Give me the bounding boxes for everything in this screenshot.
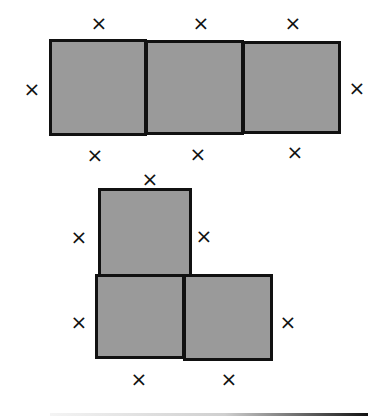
- square-tile: [183, 274, 273, 361]
- x-mark-icon: ×: [285, 142, 305, 162]
- x-mark-icon: ×: [219, 369, 239, 389]
- x-mark-icon: ×: [188, 144, 208, 164]
- x-mark-icon: ×: [283, 13, 303, 33]
- square-tile: [242, 41, 341, 134]
- x-mark-icon: ×: [347, 78, 367, 98]
- x-mark-icon: ×: [69, 312, 89, 332]
- square-tile: [145, 40, 244, 135]
- x-mark-icon: ×: [69, 227, 89, 247]
- x-mark-icon: ×: [278, 312, 298, 332]
- bottom-rule-line: [50, 413, 368, 416]
- x-mark-icon: ×: [129, 369, 149, 389]
- x-mark-icon: ×: [140, 169, 160, 189]
- x-mark-icon: ×: [89, 13, 109, 33]
- x-mark-icon: ×: [22, 79, 42, 99]
- square-tile: [98, 188, 192, 277]
- square-tile: [95, 274, 185, 359]
- x-mark-icon: ×: [85, 145, 105, 165]
- square-tile: [49, 39, 147, 136]
- x-mark-icon: ×: [191, 13, 211, 33]
- x-mark-icon: ×: [194, 226, 214, 246]
